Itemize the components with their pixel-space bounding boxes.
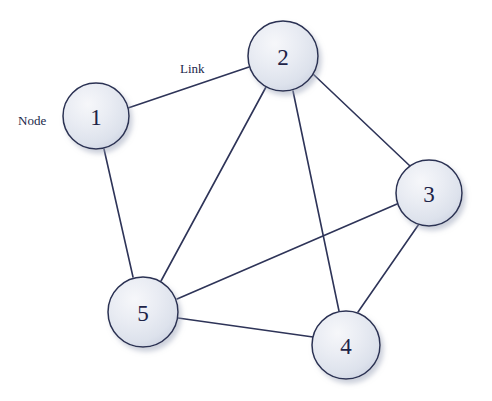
- node-label-2: 2: [277, 45, 289, 70]
- edge-2-4[interactable]: [293, 91, 339, 311]
- node-1[interactable]: 1: [63, 83, 129, 149]
- node-5[interactable]: 5: [108, 277, 178, 347]
- node-annotation: Node: [18, 113, 46, 128]
- node-label-4: 4: [340, 334, 352, 359]
- node-3[interactable]: 3: [396, 160, 462, 226]
- link-annotation: Link: [180, 61, 205, 76]
- node-label-5: 5: [137, 301, 149, 326]
- node-2[interactable]: 2: [248, 21, 318, 91]
- node-4[interactable]: 4: [312, 311, 380, 379]
- edge-4-5[interactable]: [178, 318, 313, 337]
- edge-1-5[interactable]: [104, 149, 133, 277]
- edge-3-4[interactable]: [358, 224, 419, 312]
- network-diagram: 12345 NodeLink: [0, 0, 492, 401]
- node-label-1: 1: [90, 105, 102, 130]
- edge-2-5[interactable]: [161, 87, 266, 281]
- edge-3-5[interactable]: [177, 204, 397, 299]
- nodes-layer: 12345: [63, 21, 462, 379]
- edge-2-3[interactable]: [313, 74, 410, 166]
- node-label-3: 3: [423, 182, 435, 207]
- graph-canvas: 12345 NodeLink: [0, 0, 492, 401]
